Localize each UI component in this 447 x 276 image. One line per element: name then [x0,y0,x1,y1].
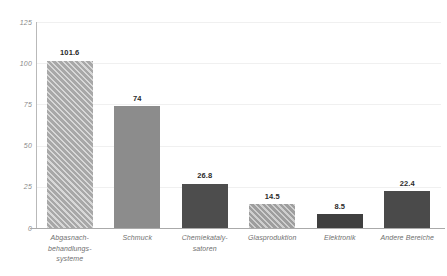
y-axis-tick-label: 50 [4,142,32,149]
bar-value-label: 74 [114,95,160,103]
x-axis-category-label: Glasproduktion [239,233,307,244]
x-axis-line [30,228,445,229]
x-axis-label-line: Abgasnach- [36,233,104,244]
x-axis-label-line: behandlungs- [36,244,104,255]
x-axis-category-labels: Abgasnach-behandlungs-systemeSchmuckChem… [36,233,441,275]
bars-layer: 101.67426.814.58.522.4 [36,22,441,228]
bar-value-label: 26.8 [182,172,228,180]
x-axis-label-line: systeme [36,254,104,265]
x-axis-label-line: Chemiekataly- [171,233,239,244]
x-axis-label-line: Andere Bereiche [374,233,442,244]
bar [249,204,295,228]
bar-group: 14.5 [249,22,295,228]
x-axis-label-line: Glasproduktion [239,233,307,244]
bar-chart: 0255075100125 101.67426.814.58.522.4 Abg… [0,0,447,276]
bar-value-label: 8.5 [317,203,363,211]
bar-group: 26.8 [182,22,228,228]
y-axis-tick-label: 25 [4,183,32,190]
y-axis-tick-labels: 0255075100125 [0,22,32,228]
bar [114,106,160,228]
x-axis-category-label: Schmuck [104,233,172,244]
bar [384,191,430,228]
y-axis-tick-label: 0 [4,225,32,232]
x-axis-category-label: Chemiekataly-satoren [171,233,239,254]
bar-value-label: 14.5 [249,193,295,201]
x-axis-category-label: Andere Bereiche [374,233,442,244]
bar [182,184,228,228]
bar-group: 74 [114,22,160,228]
x-axis-label-line: satoren [171,244,239,255]
bar-value-label: 101.6 [47,49,93,57]
bar-value-label: 22.4 [384,180,430,188]
bar-group: 8.5 [317,22,363,228]
bar-group: 101.6 [47,22,93,228]
x-axis-category-label: Elektronik [306,233,374,244]
bar [47,61,93,228]
y-axis-tick-label: 125 [4,19,32,26]
bar-group: 22.4 [384,22,430,228]
y-axis-tick-label: 75 [4,101,32,108]
x-axis-label-line: Schmuck [104,233,172,244]
x-axis-label-line: Elektronik [306,233,374,244]
y-axis-tick-label: 100 [4,60,32,67]
x-axis-category-label: Abgasnach-behandlungs-systeme [36,233,104,265]
bar [317,214,363,228]
